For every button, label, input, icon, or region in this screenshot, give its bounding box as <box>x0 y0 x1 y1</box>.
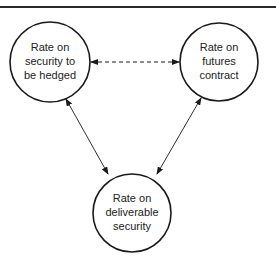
node-futures-line-2: futures <box>179 54 259 68</box>
node-security-label: Rate on security to be hedged <box>10 40 90 82</box>
node-deliverable-label: Rate on deliverable security <box>92 191 172 233</box>
node-deliverable-line-3: security <box>92 219 172 233</box>
node-futures-label: Rate on futures contract <box>179 40 259 82</box>
node-futures-line-3: contract <box>179 68 259 82</box>
node-futures-line-1: Rate on <box>179 40 259 54</box>
edge-security-deliverable-arrow <box>66 99 108 174</box>
node-security-line-1: Rate on <box>10 40 90 54</box>
node-deliverable-line-1: Rate on <box>92 191 172 205</box>
edge-futures-deliverable-arrow <box>157 98 201 174</box>
node-deliverable-line-2: deliverable <box>92 205 172 219</box>
node-security-line-2: security to <box>10 54 90 68</box>
node-security-line-3: be hedged <box>10 68 90 82</box>
